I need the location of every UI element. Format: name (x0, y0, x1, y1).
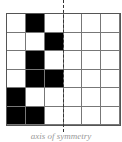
grid-cell (64, 33, 83, 52)
grid-cell (45, 14, 64, 33)
grid-cell (64, 51, 83, 70)
grid-cell (45, 107, 64, 126)
grid-cell (64, 14, 83, 33)
grid-cell (26, 33, 45, 52)
grid-cell (26, 88, 45, 107)
grid-cell (101, 14, 120, 33)
grid-cell (26, 14, 45, 33)
grid-cell (7, 51, 26, 70)
grid-cell (7, 70, 26, 89)
grid-cell (101, 88, 120, 107)
grid-cell (45, 70, 64, 89)
grid-cell (45, 88, 64, 107)
grid-cell (26, 107, 45, 126)
grid-cell (64, 70, 83, 89)
axis-of-symmetry-line (63, 0, 64, 132)
grid-cell (45, 33, 64, 52)
caption: axis of symmetry (0, 131, 122, 142)
grid-cell (82, 88, 101, 107)
grid-cell (7, 88, 26, 107)
grid-cell (7, 14, 26, 33)
grid-cell (82, 70, 101, 89)
grid-cell (82, 14, 101, 33)
grid-cell (26, 51, 45, 70)
grid-cell (101, 51, 120, 70)
grid-cell (64, 88, 83, 107)
grid-cell (82, 107, 101, 126)
grid-cell (101, 70, 120, 89)
grid-cell (82, 51, 101, 70)
grid-cell (101, 33, 120, 52)
grid-cell (7, 33, 26, 52)
grid-cell (7, 107, 26, 126)
grid-cell (101, 107, 120, 126)
grid-cell (64, 107, 83, 126)
grid-cell (26, 70, 45, 89)
grid-cell (82, 33, 101, 52)
grid-cell (45, 51, 64, 70)
